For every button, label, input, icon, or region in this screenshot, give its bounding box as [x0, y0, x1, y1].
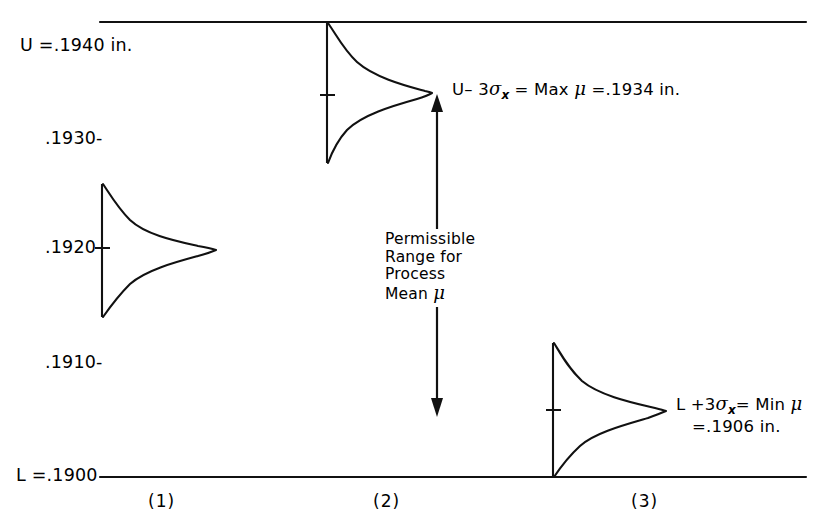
- arrowhead-up: [431, 94, 443, 112]
- sigma-symbol-top: σ: [489, 78, 502, 99]
- sigma-symbol-bottom: σ: [716, 393, 729, 414]
- permissible-range-line-4: Mean μ: [385, 284, 475, 304]
- min-mean-annotation: L +3σx= Min μ =.1906 in.: [676, 395, 803, 436]
- group-label-1: (1): [148, 493, 175, 510]
- min-mean-expr-prefix: L +3: [676, 395, 716, 414]
- permissible-range-text: Permissible Range for Process Mean μ: [385, 231, 475, 303]
- min-mean-equals: = Min: [736, 395, 791, 414]
- max-mean-equals: = Max: [515, 80, 575, 99]
- bell-curve-2: [328, 23, 432, 163]
- group-label-2: (2): [373, 493, 400, 510]
- distribution-curve-1: [95, 184, 216, 317]
- min-mean-line-1: L +3σx= Min μ: [676, 395, 803, 416]
- mu-symbol-bottom: μ: [791, 393, 803, 414]
- min-mean-line-2: =.1906 in.: [692, 419, 803, 436]
- max-mean-value: =.1934 in.: [586, 80, 680, 99]
- tick-label-1930: .1930-: [45, 130, 103, 148]
- bell-curve-3: [554, 343, 666, 477]
- distribution-curve-2: [320, 22, 432, 163]
- permissible-range-line-1: Permissible: [385, 231, 475, 249]
- permissible-range-mean-word: Mean: [385, 285, 433, 303]
- permissible-range-line-2: Range for: [385, 249, 475, 267]
- distribution-curve-3: [546, 343, 666, 477]
- group-label-3: (3): [631, 493, 658, 510]
- mu-symbol-center: μ: [433, 282, 445, 303]
- tick-label-1910: .1910-: [45, 354, 103, 372]
- arrowhead-down: [431, 398, 443, 417]
- max-mean-expr-prefix: U– 3: [452, 80, 489, 99]
- mu-symbol-top: μ: [574, 78, 586, 99]
- bell-curve-1: [103, 184, 216, 317]
- max-mean-annotation: U– 3σx = Max μ =.1934 in.: [452, 80, 680, 101]
- tick-label-1920: .1920: [45, 239, 96, 257]
- spc-distribution-figure: U =.1940 in. .1930- .1920 .1910- L =.190…: [0, 0, 821, 529]
- upper-limit-label: U =.1940 in.: [20, 37, 133, 55]
- permissible-range-line-3: Process: [385, 266, 475, 284]
- sigma-subscript-top: x: [501, 88, 509, 102]
- sigma-subscript-bottom: x: [728, 403, 736, 417]
- lower-limit-label: L =.1900: [16, 467, 98, 485]
